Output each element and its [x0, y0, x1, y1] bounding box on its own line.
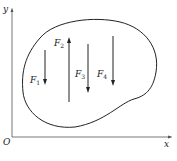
y-axis-label: y — [2, 4, 9, 14]
force-diagram: y x O F1 F2 F3 F4 — [0, 0, 177, 161]
rigid-body-outline — [23, 19, 157, 127]
force-label-f3: F3 — [74, 69, 85, 80]
force-label-f1: F1 — [29, 75, 40, 86]
force-label-f2: F2 — [53, 38, 64, 49]
force-label-f4: F4 — [96, 69, 107, 80]
x-axis-label: x — [164, 139, 169, 149]
origin-label: O — [3, 137, 11, 147]
